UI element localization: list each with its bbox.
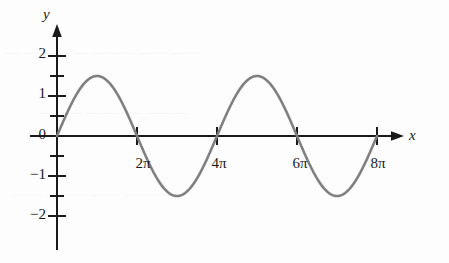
- x-axis-label: x: [409, 127, 416, 144]
- x-tick-label-2pi: 2π: [125, 155, 161, 172]
- x-tick-label-8pi: 8π: [360, 155, 396, 172]
- y-tick-label-1: 1: [12, 85, 46, 102]
- sine-graph-figure: — — —— — ——— —— —— ——— ———— ——— —— ——— —…: [0, 0, 449, 263]
- y-axis-label: y: [43, 6, 50, 23]
- plot-canvas: [0, 0, 449, 263]
- x-tick-label-4pi: 4π: [201, 155, 237, 172]
- y-tick-label-minus-1: −1: [8, 166, 46, 183]
- y-tick-label-0: 0: [12, 126, 46, 143]
- x-tick-label-6pi: 6π: [282, 155, 318, 172]
- y-tick-label-minus-2: −2: [8, 206, 46, 223]
- y-tick-label-2: 2: [12, 45, 46, 62]
